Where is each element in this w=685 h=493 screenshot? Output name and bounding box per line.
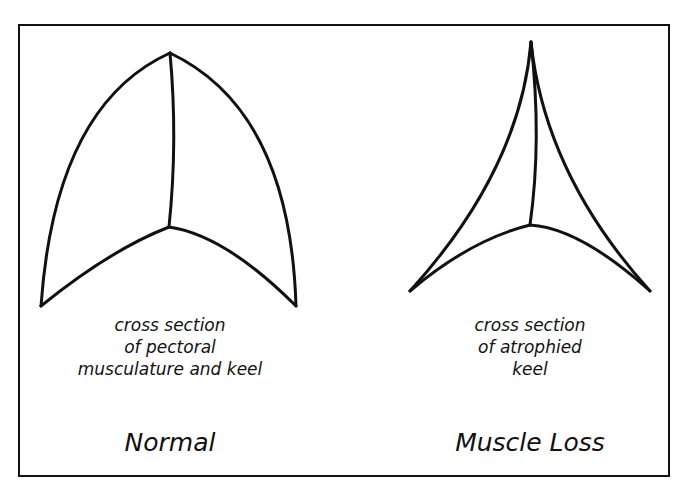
caption-line: cross section xyxy=(70,314,270,336)
caption-line: musculature and keel xyxy=(70,358,270,380)
normal-keel-shape xyxy=(41,53,296,306)
caption-line: of pectoral xyxy=(70,336,270,358)
muscle-loss-caption: cross section of atrophied keel xyxy=(430,314,630,380)
keel-cross-section-drawings xyxy=(0,0,685,493)
caption-line: cross section xyxy=(430,314,630,336)
atrophied-keel-shape xyxy=(410,42,650,291)
normal-title: Normal xyxy=(95,428,245,457)
caption-line: keel xyxy=(430,358,630,380)
muscle-loss-title: Muscle Loss xyxy=(420,428,640,457)
normal-caption: cross section of pectoral musculature an… xyxy=(70,314,270,380)
caption-line: of atrophied xyxy=(430,336,630,358)
